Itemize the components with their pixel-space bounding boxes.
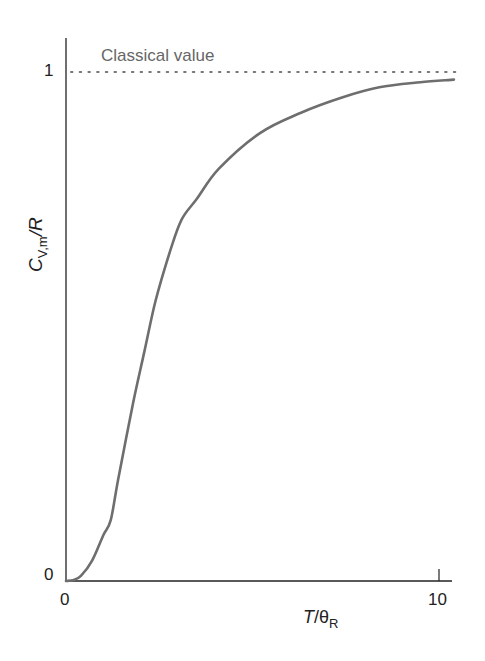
x-tick-label-10: 10: [428, 590, 447, 610]
chart-plot-area: [0, 0, 485, 661]
x-tick-label-0: 0: [60, 590, 69, 610]
x-axis-label: T/θR: [303, 607, 338, 631]
y-label-denominator: /R: [25, 217, 46, 236]
y-label-symbol: C: [25, 258, 46, 272]
x-label-symbol: T: [303, 607, 314, 627]
x-label-subscript: R: [329, 616, 338, 631]
y-tick-label-1: 1: [44, 61, 53, 81]
x-label-theta: /θ: [314, 607, 329, 627]
classical-value-label: Classical value: [101, 46, 214, 66]
y-axis-label: CV,m/R: [25, 217, 50, 272]
y-tick-label-0: 0: [44, 565, 53, 585]
y-label-subscript: V,m: [35, 236, 50, 258]
heat-capacity-curve: [66, 80, 454, 581]
